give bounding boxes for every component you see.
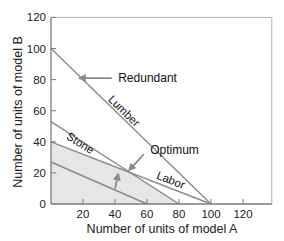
x-tick-label: 40: [109, 208, 122, 220]
y-tick-label: 40: [33, 136, 46, 148]
y-tick-label: 20: [33, 167, 46, 179]
y-axis-title: Number of units of model B: [11, 36, 25, 187]
y-tick-label: 0: [40, 198, 46, 210]
x-tick-label: 100: [201, 208, 220, 220]
x-tick-label: 80: [173, 208, 186, 220]
optimum-label: Optimum: [150, 143, 199, 157]
y-tick-label: 60: [33, 105, 46, 117]
lumber-label: Lumber: [106, 93, 142, 129]
optimum-arrow-icon: [129, 154, 143, 170]
x-tick-label: 60: [141, 208, 154, 220]
y-tick-label: 80: [33, 74, 46, 86]
x-axis-title: Number of units of model A: [87, 222, 238, 236]
linear-programming-chart: LumberStoneLabor 20406080100120020406080…: [0, 0, 284, 241]
y-tick-label: 100: [27, 43, 46, 55]
y-tick-label: 120: [27, 11, 46, 23]
x-tick-label: 120: [233, 208, 252, 220]
redundant-label: Redundant: [118, 71, 177, 85]
x-tick-label: 20: [77, 208, 90, 220]
